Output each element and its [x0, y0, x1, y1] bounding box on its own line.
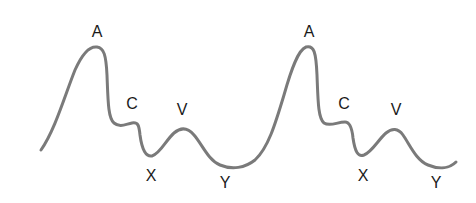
label-v-wave-2: V	[391, 102, 402, 118]
label-v-wave-1: V	[177, 102, 188, 118]
waveform-svg	[0, 0, 476, 203]
label-a-wave-1: A	[92, 24, 103, 40]
label-x-descent-1: X	[146, 168, 157, 184]
label-a-wave-2: A	[304, 24, 315, 40]
label-x-descent-2: X	[358, 168, 369, 184]
label-c-wave-2: C	[338, 96, 350, 112]
label-y-descent-1: Y	[220, 175, 231, 191]
label-y-descent-2: Y	[431, 175, 442, 191]
label-c-wave-1: C	[126, 96, 138, 112]
